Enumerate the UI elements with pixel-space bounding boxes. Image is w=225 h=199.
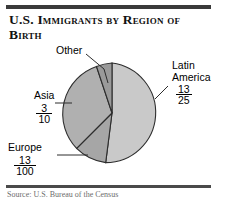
pie-label-asia: Asia 3 10 [34,90,54,125]
pie-label-asia-name: Asia [34,90,54,102]
pie-label-latin-america-line2: America [172,72,211,84]
fraction-numerator: 13 [14,155,36,165]
fraction-denominator: 10 [36,113,52,124]
pie-chart: Latin America 13 25 Asia 3 10 Europe [0,42,225,184]
title-rule-top [6,5,211,9]
fraction-numerator: 13 [176,84,192,94]
fraction-denominator: 100 [14,165,36,176]
pie-value-europe: 13 100 [14,155,36,176]
pie-label-europe: Europe 13 100 [8,142,42,177]
pie-slice-latin-america[interactable] [106,63,156,163]
page-title: U.S. Immigrants by Region of Birth [9,12,209,42]
pie-label-europe-name: Europe [8,142,42,154]
source-note: Source: U.S. Bureau of the Census [7,190,217,199]
pie-label-other-name: Other [56,45,82,57]
pie-label-latin-america-line1: Latin [172,60,211,72]
source-rule [6,185,211,188]
pie-label-latin-america: Latin America 13 25 [172,60,211,107]
leader-line-latin-america [155,86,168,99]
pie-value-latin-america: 13 25 [176,84,192,105]
pie-label-other: Other [56,45,82,57]
figure-frame: U.S. Immigrants by Region of Birth Latin… [0,0,225,199]
fraction-denominator: 25 [176,94,192,105]
pie-value-asia: 3 10 [36,103,52,124]
fraction-numerator: 3 [36,103,52,113]
